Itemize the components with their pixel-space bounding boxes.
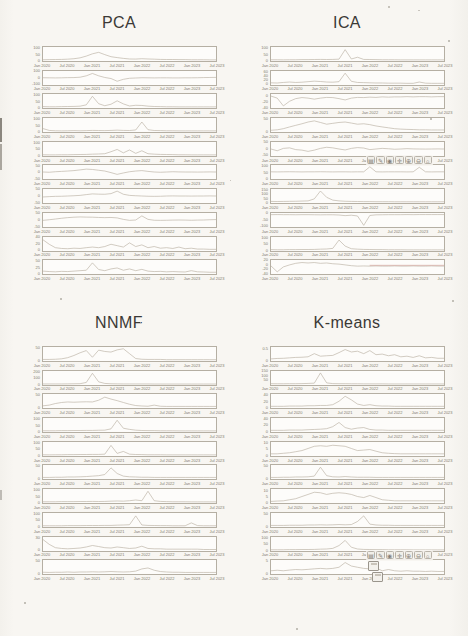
toolbar-brush-icon[interactable]: ✎ (376, 156, 385, 165)
plot-box (270, 46, 445, 62)
x-tick-label: Jul 2020 (59, 158, 74, 163)
y-tick-label: 40 (36, 235, 40, 239)
toolbar-pan-icon[interactable]: ✛ (395, 156, 404, 165)
y-tick-label: 5 (266, 447, 268, 451)
series-svg (271, 489, 444, 503)
x-tick-label: Jul 2020 (59, 505, 74, 510)
panel-kmeans: K-means 0.50Jan 2020Jul 2020Jan 2021Jul … (238, 308, 456, 583)
y-axis-tick-labels: 500 (26, 464, 41, 480)
series-line (271, 121, 444, 130)
x-tick-label: Jan 2021 (312, 110, 328, 115)
x-tick-label: Jan 2022 (134, 576, 150, 581)
y-tick-label: 40 (264, 393, 268, 397)
toolbar-zoom-in-icon[interactable]: ⊕ (405, 156, 414, 165)
y-tick-label: 30 (36, 536, 40, 540)
x-tick-label: Jul 2023 (437, 158, 452, 163)
series-svg (43, 94, 216, 108)
x-tick-label: Jan 2020 (262, 386, 278, 391)
x-tick-label: Jan 2020 (262, 158, 278, 163)
series-line (43, 516, 216, 526)
y-tick-label: 100 (33, 141, 40, 145)
window-icon[interactable] (368, 561, 379, 571)
x-tick-label: Jul 2022 (387, 181, 402, 186)
y-tick-label: 100 (261, 164, 268, 168)
toolbar-home-icon[interactable]: ⌂ (424, 551, 433, 560)
toolbar-datatip-icon[interactable]: ◉ (386, 156, 395, 165)
x-tick-label: Jan 2023 (412, 252, 428, 257)
x-tick-label: Jan 2020 (262, 434, 278, 439)
x-axis-tick-labels: Jan 2020Jul 2020Jan 2021Jul 2021Jan 2022… (270, 86, 445, 92)
subplot-pca-5: 100500Jan 2020Jul 2020Jan 2021Jul 2021Ja… (26, 141, 228, 165)
x-tick-label: Jan 2021 (312, 276, 328, 281)
y-tick-label: 100 (33, 69, 40, 73)
x-tick-label: Jan 2022 (134, 363, 150, 368)
x-tick-label: Jan 2022 (134, 410, 150, 415)
y-tick-label: 100 (33, 488, 40, 492)
y-tick-label: 0.5 (262, 347, 268, 351)
toolbar-pan-icon[interactable]: ✛ (395, 551, 404, 560)
x-axis-tick-labels: Jan 2020Jul 2020Jan 2021Jul 2021Jan 2022… (42, 229, 217, 235)
toolbar-zoom-out-icon[interactable]: ⊖ (414, 551, 423, 560)
subplot-ica-7: 150100500Jan 2020Jul 2020Jan 2021Jul 202… (254, 188, 456, 212)
x-tick-label: Jan 2022 (362, 458, 378, 463)
toolbar-export-icon[interactable]: ▤ (367, 156, 376, 165)
series-line (271, 191, 444, 202)
x-tick-label: Jul 2020 (287, 205, 302, 210)
subplot-nnmf-3: 500Jan 2020Jul 2020Jan 2021Jul 2021Jan 2… (26, 393, 228, 417)
x-tick-label: Jan 2021 (312, 134, 328, 139)
toolbar-zoom-in-icon[interactable]: ⊕ (405, 551, 414, 560)
x-tick-label: Jul 2021 (337, 576, 352, 581)
x-tick-label: Jan 2022 (134, 86, 150, 91)
x-tick-label: Jan 2022 (134, 229, 150, 234)
x-tick-label: Jul 2020 (287, 529, 302, 534)
x-tick-label: Jan 2023 (412, 529, 428, 534)
x-tick-label: Jan 2023 (412, 410, 428, 415)
series-line (43, 491, 216, 502)
plot-box (42, 393, 217, 409)
x-tick-label: Jul 2023 (209, 505, 224, 510)
y-axis-tick-labels: 1050 (254, 441, 269, 457)
x-tick-label: Jul 2022 (159, 434, 174, 439)
scan-speckle (448, 40, 450, 42)
window-icon[interactable] (372, 572, 383, 582)
x-axis-tick-labels: Jan 2020Jul 2020Jan 2021Jul 2021Jan 2022… (42, 552, 217, 558)
x-tick-label: Jul 2020 (59, 576, 74, 581)
toolbar-home-icon[interactable]: ⌂ (424, 156, 433, 165)
x-axis-tick-labels: Jan 2020Jul 2020Jan 2021Jul 2021Jan 2022… (42, 205, 217, 211)
x-tick-label: Jan 2023 (412, 386, 428, 391)
x-tick-label: Jul 2023 (209, 181, 224, 186)
x-tick-label: Jan 2020 (262, 110, 278, 115)
x-tick-label: Jan 2021 (84, 434, 100, 439)
toolbar-zoom-out-icon[interactable]: ⊖ (414, 156, 423, 165)
x-tick-label: Jan 2023 (184, 410, 200, 415)
x-tick-label: Jul 2021 (337, 481, 352, 486)
x-tick-label: Jul 2023 (209, 63, 224, 68)
x-tick-label: Jan 2021 (84, 552, 100, 557)
y-axis-tick-labels: 500 (254, 512, 269, 528)
x-tick-label: Jan 2021 (312, 205, 328, 210)
toolbar-datatip-icon[interactable]: ◉ (386, 551, 395, 560)
x-tick-label: Jan 2021 (312, 552, 328, 557)
x-tick-label: Jul 2023 (209, 205, 224, 210)
toolbar-export-icon[interactable]: ▤ (367, 551, 376, 560)
x-tick-label: Jul 2022 (159, 458, 174, 463)
subplot-nnmf-5: 100500Jan 2020Jul 2020Jan 2021Jul 2021Ja… (26, 441, 228, 465)
x-tick-label: Jan 2020 (34, 576, 50, 581)
x-tick-label: Jan 2021 (312, 481, 328, 486)
x-tick-label: Jan 2020 (262, 458, 278, 463)
y-axis-tick-labels: 40200 (254, 393, 269, 409)
x-tick-label: Jul 2021 (337, 505, 352, 510)
x-tick-label: Jul 2021 (109, 386, 124, 391)
y-tick-label: 100 (33, 512, 40, 516)
x-tick-label: Jan 2020 (262, 529, 278, 534)
series-svg (271, 394, 444, 408)
x-tick-label: Jan 2022 (362, 505, 378, 510)
x-tick-label: Jan 2022 (362, 386, 378, 391)
x-tick-label: Jan 2021 (84, 181, 100, 186)
x-tick-label: Jul 2021 (337, 386, 352, 391)
x-tick-label: Jan 2023 (184, 181, 200, 186)
series-line (43, 420, 216, 431)
x-tick-label: Jan 2022 (362, 252, 378, 257)
x-tick-label: Jul 2020 (59, 63, 74, 68)
toolbar-brush-icon[interactable]: ✎ (376, 551, 385, 560)
